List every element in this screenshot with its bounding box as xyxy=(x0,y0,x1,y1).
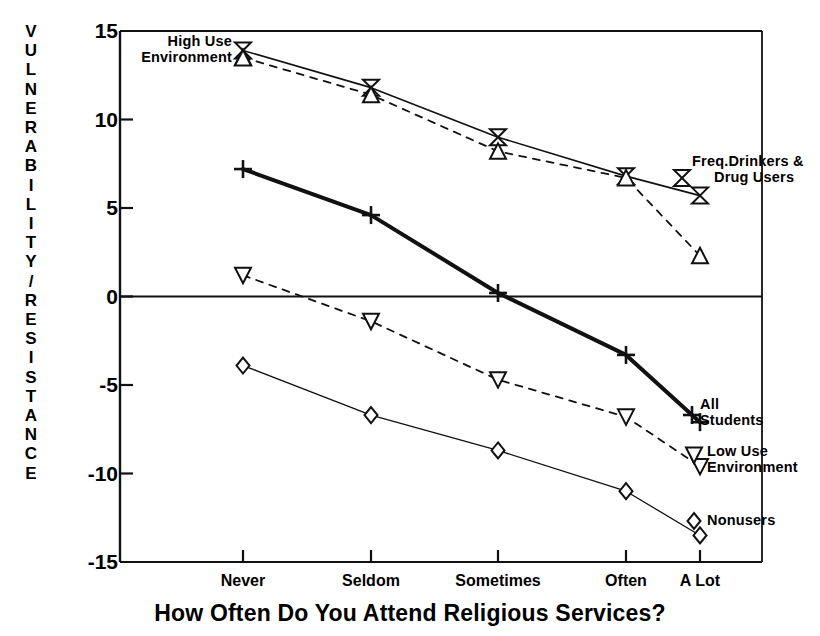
x-tick-label: Seldom xyxy=(342,572,400,590)
annotation-high-use-environment: High Use Environment xyxy=(120,33,232,65)
marker-diamond xyxy=(620,483,633,499)
annotation-all-students: All Students xyxy=(700,396,764,428)
annotation-nonusers-line1: Nonusers xyxy=(707,512,775,528)
series-5 xyxy=(237,358,707,544)
marker-plus xyxy=(234,160,252,178)
marker-diamond xyxy=(688,513,701,529)
marker-triangle-up xyxy=(692,248,708,264)
marker-diamond xyxy=(492,442,505,458)
series-line xyxy=(243,58,700,256)
x-tick-label: Never xyxy=(221,572,265,590)
annotation-all-students-line1: All xyxy=(700,396,764,412)
annotation-high-use-line1: High Use xyxy=(120,33,232,49)
marker-plus xyxy=(489,284,507,302)
marker-bowtie xyxy=(674,170,690,186)
marker-triangle-down xyxy=(235,268,251,284)
series-1 xyxy=(235,42,708,203)
annotation-low-use-line2: Environment xyxy=(707,459,798,475)
marker-triangle-down xyxy=(490,372,506,388)
annotation-low-use-environment: Low Use Environment xyxy=(707,443,798,475)
annotation-markers xyxy=(235,50,702,529)
x-axis-title: How Often Do You Attend Religious Servic… xyxy=(0,600,820,627)
series-2 xyxy=(235,50,708,264)
x-tick-label: Sometimes xyxy=(455,572,540,590)
marker-triangle-down xyxy=(363,314,379,330)
marker-bowtie xyxy=(692,188,708,204)
marker-diamond xyxy=(237,358,250,374)
annotation-high-use-line2: Environment xyxy=(120,49,232,65)
annotation-freq-drinkers-line2: Drug Users xyxy=(714,169,804,185)
marker-triangle-down xyxy=(618,409,634,425)
annotation-freq-drinkers: Freq.Drinkers & Drug Users xyxy=(692,153,804,185)
marker-diamond xyxy=(365,407,378,423)
annotation-low-use-line1: Low Use xyxy=(707,443,798,459)
marker-plus xyxy=(362,206,380,224)
x-tick-label: A Lot xyxy=(680,572,720,590)
annotation-all-students-line2: Students xyxy=(700,412,764,428)
annotation-nonusers: Nonusers xyxy=(707,512,775,528)
marker-diamond xyxy=(694,527,707,543)
chart-root: VULNERABILITY/RESISTANCE 151050-5-10-15 … xyxy=(0,0,820,636)
series-line xyxy=(243,275,700,466)
plot-area xyxy=(0,0,820,636)
x-tick-label: Often xyxy=(605,572,647,590)
annotation-freq-drinkers-line1: Freq.Drinkers & xyxy=(692,153,804,169)
series-line xyxy=(243,50,700,195)
series-line xyxy=(243,366,700,536)
